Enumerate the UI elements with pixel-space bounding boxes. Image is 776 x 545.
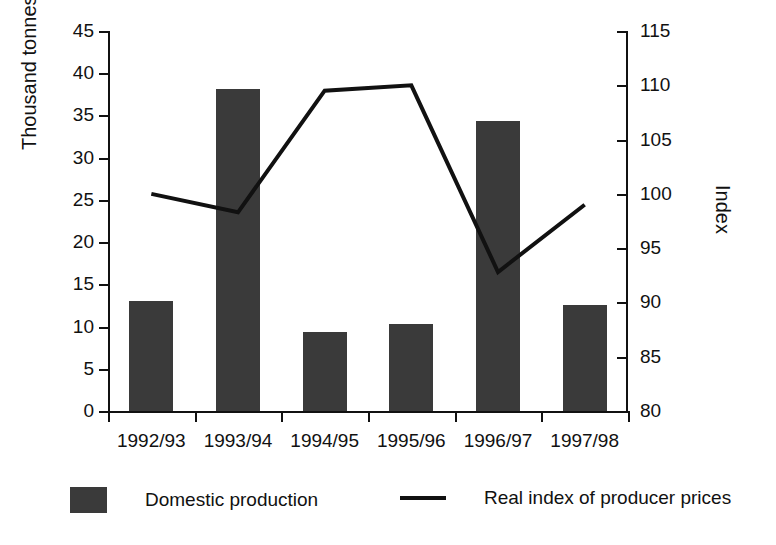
- tick-label: 15: [73, 274, 94, 293]
- plot-area: 051015202530354045 80859095100105110115 …: [108, 31, 628, 413]
- x-axis-category-label: 1995/96: [368, 431, 455, 450]
- x-axis-category-label: 1993/94: [195, 431, 282, 450]
- tick-label: 110: [640, 75, 670, 94]
- tick-label: 90: [640, 292, 661, 311]
- tick-mark: [99, 200, 108, 202]
- tick-mark: [99, 411, 108, 413]
- tick-mark: [99, 31, 108, 33]
- tick-label: 115: [640, 21, 670, 40]
- chart-figure: Thousand tonnes Index 051015202530354045…: [0, 0, 776, 545]
- legend-label-producer-prices: Real index of producer prices: [484, 487, 731, 509]
- tick-label: 0: [83, 401, 94, 420]
- tick-mark: [99, 369, 108, 371]
- line-series: [108, 31, 628, 413]
- x-axis-category-label: 1997/98: [541, 431, 628, 450]
- x-axis-category-label: 1996/97: [455, 431, 542, 450]
- x-axis-category-label: 1992/93: [108, 431, 195, 450]
- tick-mark: [99, 158, 108, 160]
- tick-label: 35: [73, 105, 94, 124]
- tick-label: 10: [73, 317, 94, 336]
- tick-label: 85: [640, 347, 661, 366]
- tick-label: 105: [640, 130, 672, 149]
- legend-item-producer-prices: Real index of producer prices: [400, 487, 731, 509]
- tick-label: 95: [640, 238, 661, 257]
- tick-mark: [99, 327, 108, 329]
- y-axis-right-title: Index: [711, 185, 734, 234]
- tick-label: 25: [73, 190, 94, 209]
- tick-mark: [99, 73, 108, 75]
- legend-bar-swatch-icon: [70, 487, 107, 513]
- tick-label: 5: [83, 359, 94, 378]
- chart-legend: Domestic production Real index of produc…: [0, 487, 776, 527]
- tick-label: 30: [73, 148, 94, 167]
- y-axis-left-title: Thousand tonnes: [18, 0, 41, 150]
- price-line-path: [151, 85, 584, 272]
- tick-label: 20: [73, 232, 94, 251]
- tick-label: 100: [640, 184, 672, 203]
- tick-label: 40: [73, 63, 94, 82]
- tick-mark: [99, 115, 108, 117]
- x-axis-category-label: 1994/95: [281, 431, 368, 450]
- x-axis-tick-mark: [628, 411, 630, 422]
- legend-item-domestic-production: Domestic production: [70, 487, 318, 513]
- legend-line-swatch-icon: [400, 496, 446, 500]
- tick-label: 80: [640, 401, 661, 420]
- tick-mark: [99, 284, 108, 286]
- legend-label-domestic-production: Domestic production: [145, 489, 318, 511]
- tick-label: 45: [73, 21, 94, 40]
- tick-mark: [99, 242, 108, 244]
